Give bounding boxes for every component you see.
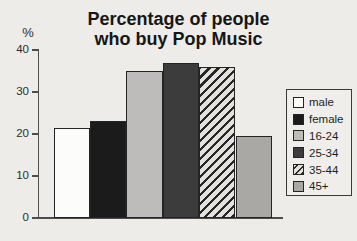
- legend-item-male: male: [293, 94, 351, 111]
- chart-title: Percentage of people who buy Pop Music: [0, 9, 357, 49]
- legend-label-female: female: [309, 113, 344, 125]
- bar-16-24: [126, 71, 162, 218]
- legend-item-16-24: 16-24: [293, 128, 351, 145]
- y-tick-mark-40: [32, 49, 39, 50]
- legend-item-45+: 45+: [293, 178, 351, 195]
- y-axis-unit-label: %: [17, 25, 39, 40]
- chart-title-line2: who buy Pop Music: [0, 29, 357, 49]
- y-tick-mark-10: [32, 175, 39, 176]
- y-tick-label-40: 40: [4, 43, 29, 55]
- legend-swatch-35-44: [293, 164, 304, 175]
- y-tick-mark-0: [32, 217, 39, 218]
- page: Percentage of people who buy Pop Music %…: [0, 0, 357, 241]
- legend-item-25-34: 25-34: [293, 144, 351, 161]
- legend: malefemale16-2425-3435-4445+: [286, 89, 352, 196]
- legend-label-male: male: [309, 96, 334, 108]
- y-tick-label-20: 20: [4, 127, 29, 139]
- legend-item-35-44: 35-44: [293, 161, 351, 178]
- y-tick-label-30: 30: [4, 85, 29, 97]
- legend-item-female: female: [293, 111, 351, 128]
- bar-male: [54, 128, 90, 218]
- legend-label-25-34: 25-34: [309, 147, 338, 159]
- legend-swatch-45+: [293, 181, 304, 192]
- y-tick-label-10: 10: [4, 169, 29, 181]
- y-tick-label-0: 0: [4, 211, 29, 223]
- legend-label-45+: 45+: [309, 180, 329, 192]
- bar-45+: [236, 136, 272, 218]
- legend-label-35-44: 35-44: [309, 164, 338, 176]
- legend-items: malefemale16-2425-3435-4445+: [293, 94, 351, 195]
- bar-35-44: [199, 67, 235, 218]
- legend-swatch-16-24: [293, 130, 304, 141]
- bar-25-34: [163, 63, 199, 218]
- chart-title-line1: Percentage of people: [0, 9, 357, 29]
- y-tick-mark-30: [32, 91, 39, 92]
- legend-label-16-24: 16-24: [309, 130, 338, 142]
- legend-swatch-25-34: [293, 147, 304, 158]
- legend-swatch-male: [293, 97, 304, 108]
- legend-swatch-female: [293, 114, 304, 125]
- bar-female: [90, 121, 126, 218]
- y-tick-mark-20: [32, 133, 39, 134]
